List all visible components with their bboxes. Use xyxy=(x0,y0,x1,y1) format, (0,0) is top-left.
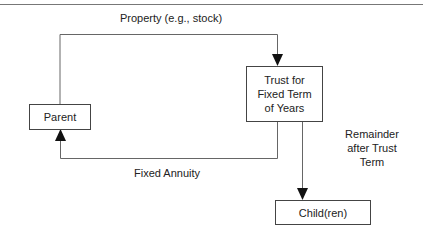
trust-node: Trust for Fixed Term of Years xyxy=(246,66,323,122)
remainder-label-line-2: after Trust xyxy=(347,141,397,155)
trust-node-label-line-1: Trust for xyxy=(264,73,305,87)
remainder-edge-label: Remainder after Trust Term xyxy=(340,127,404,169)
property-edge-label: Property (e.g., stock) xyxy=(118,11,224,25)
annuity-edge-label: Fixed Annuity xyxy=(130,166,204,180)
parent-node: Parent xyxy=(29,104,91,130)
trust-node-label-line-2: Fixed Term xyxy=(257,87,311,101)
child-node-label: Child(ren) xyxy=(299,206,347,220)
property-arrowhead-icon xyxy=(272,54,283,66)
diagram-canvas: Parent Trust for Fixed Term of Years Chi… xyxy=(0,0,423,230)
remainder-label-line-3: Term xyxy=(360,155,384,169)
remainder-label-line-1: Remainder xyxy=(345,127,399,141)
trust-node-label-line-3: of Years xyxy=(265,101,305,115)
remainder-arrowhead-icon xyxy=(297,188,308,200)
annuity-edge-line xyxy=(61,121,278,159)
annuity-arrowhead-icon xyxy=(55,129,66,141)
child-node: Child(ren) xyxy=(275,200,371,225)
property-edge-line xyxy=(60,35,278,105)
parent-node-label: Parent xyxy=(44,110,76,124)
